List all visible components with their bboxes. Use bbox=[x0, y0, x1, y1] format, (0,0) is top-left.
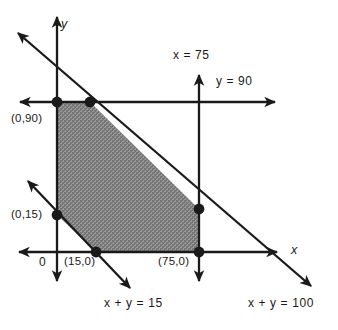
label-x-plus-y-equals-15: x + y = 15 bbox=[104, 296, 163, 310]
shaded-feasible-region bbox=[57, 102, 199, 252]
y-axis-label: y bbox=[61, 17, 67, 31]
point-75-25 bbox=[194, 204, 205, 215]
feasible-region-diagram: y x 0 x = 75 y = 90 x + y = 15 x + y = 1… bbox=[0, 0, 338, 330]
label-point-75-0: (75,0) bbox=[158, 255, 189, 267]
origin-label: 0 bbox=[39, 255, 46, 269]
label-x-plus-y-equals-100: x + y = 100 bbox=[248, 296, 314, 310]
point-0-15 bbox=[52, 210, 63, 221]
x-axis-label: x bbox=[291, 243, 297, 257]
point-0-90 bbox=[52, 97, 63, 108]
label-x-equals-75: x = 75 bbox=[173, 48, 210, 62]
point-75-0 bbox=[194, 247, 205, 258]
label-point-15-0: (15,0) bbox=[64, 255, 95, 267]
label-point-0-90: (0,90) bbox=[11, 112, 42, 124]
graph-canvas bbox=[0, 0, 338, 330]
label-point-0-15: (0,15) bbox=[11, 208, 42, 220]
label-y-equals-90: y = 90 bbox=[216, 74, 253, 88]
point-10-90 bbox=[85, 97, 96, 108]
